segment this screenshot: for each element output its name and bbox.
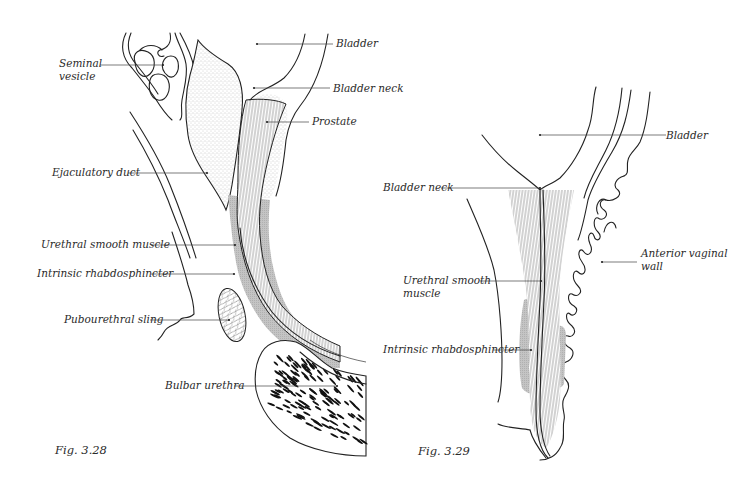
label-ejaculatory-duct: Ejaculatory duct: [51, 166, 141, 178]
urethra-female-base: [498, 424, 530, 430]
bulbar-urethra-drawing: [255, 340, 368, 456]
label-bulbar-urethra: Bulbar urethra: [164, 379, 244, 391]
label-bladder-neck-female: Bladder neck: [382, 181, 454, 193]
seminal-vesicle-drawing: [123, 33, 195, 120]
label-bladder-male: Bladder: [335, 37, 379, 49]
figure-caption-3-28: Fig. 3.28: [54, 443, 107, 457]
figure-caption-3-29: Fig. 3.29: [417, 444, 470, 458]
vaginal-wall-line: [624, 92, 650, 176]
pubourethral-sling-drawing: [214, 286, 251, 344]
bladder-wall-female: [482, 135, 540, 190]
urethra-female-outer-left: [467, 199, 502, 402]
label-anterior-vaginal-wall-line1: Anterior vaginal: [640, 247, 728, 259]
figure-3-29: Bladder Bladder neck Anterior vaginal wa…: [382, 87, 728, 460]
label-urethral-smooth-muscle-female-line2: muscle: [403, 287, 441, 299]
anatomy-figure-canvas: Seminal vesicle Bladder Bladder neck Pro…: [0, 0, 753, 488]
label-intrinsic-rhabdosphincter-male: Intrinsic rhabdosphincter: [36, 267, 174, 279]
label-bladder-female: Bladder: [665, 129, 709, 141]
figure-3-28: Seminal vesicle Bladder Bladder neck Pro…: [36, 33, 404, 457]
pelvic-wall-line: [130, 112, 196, 258]
label-urethral-smooth-muscle-female-line1: Urethral smooth: [403, 274, 491, 286]
label-intrinsic-rhabdosphincter-female: Intrinsic rhabdosphincter: [382, 343, 520, 355]
label-pubourethral-sling: Pubourethral sling: [63, 313, 164, 325]
prostate-posterior: [186, 40, 243, 210]
label-prostate: Prostate: [311, 115, 357, 127]
label-anterior-vaginal-wall-line2: wall: [641, 260, 663, 272]
label-urethral-smooth-muscle-male: Urethral smooth muscle: [41, 238, 170, 250]
label-seminal-vesicle-line2: vesicle: [59, 70, 95, 82]
urethra-male-fibers: [237, 99, 340, 362]
bladder-wall-female: [540, 87, 596, 190]
label-bladder-neck-male: Bladder neck: [332, 82, 404, 94]
label-seminal-vesicle-line1: Seminal: [59, 57, 102, 69]
